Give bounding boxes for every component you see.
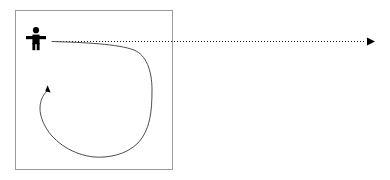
person-left-leg-icon (32, 43, 35, 50)
scene-svg (0, 0, 390, 180)
person-torso-icon (32, 35, 39, 45)
person-right-leg-icon (37, 43, 40, 50)
person-head-icon (33, 27, 39, 33)
diagram-canvas (0, 0, 390, 180)
canvas-background (0, 0, 390, 180)
